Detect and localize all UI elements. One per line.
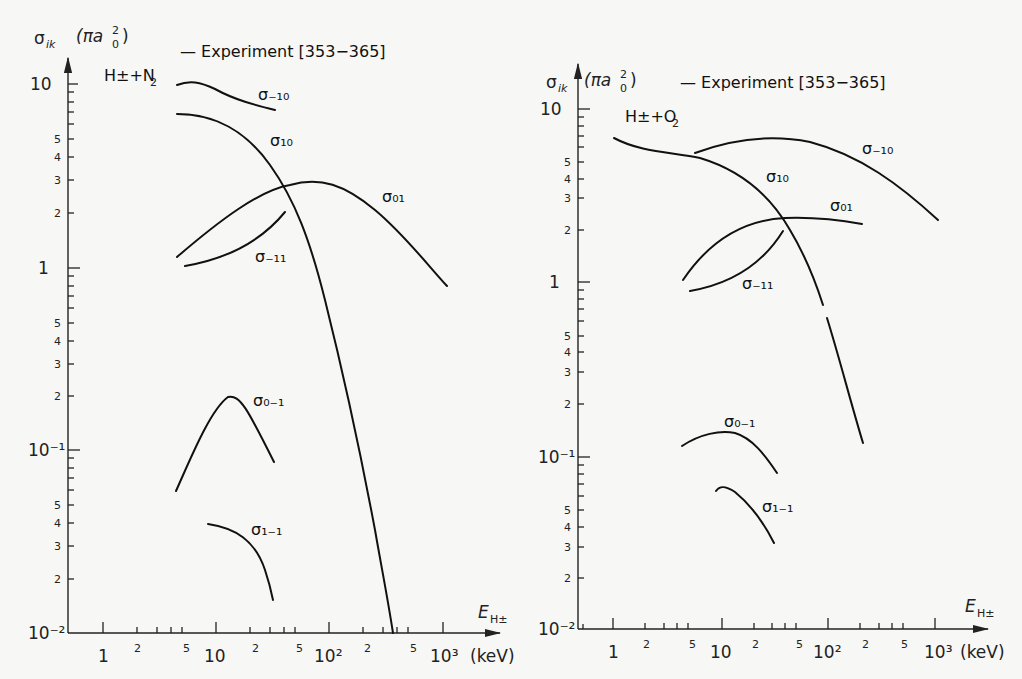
svg-text:10²: 10² xyxy=(314,646,342,666)
svg-text:σ₋₁₁: σ₋₁₁ xyxy=(255,247,286,266)
left-curve-sigma0-1 xyxy=(176,397,274,491)
svg-text:2: 2 xyxy=(54,390,61,403)
right-y-ticks xyxy=(578,109,590,578)
svg-text:4: 4 xyxy=(564,346,571,359)
svg-text:2: 2 xyxy=(364,642,371,655)
right-curve-sigma01 xyxy=(683,218,862,280)
svg-text:2: 2 xyxy=(620,68,627,81)
svg-text:5: 5 xyxy=(901,638,908,651)
svg-text:5: 5 xyxy=(564,330,571,343)
svg-text:(πa: (πa xyxy=(584,70,611,90)
svg-text:σ₀₋₁: σ₀₋₁ xyxy=(724,412,755,431)
svg-text:4: 4 xyxy=(54,151,61,164)
svg-text:σ: σ xyxy=(34,28,45,48)
svg-text:5: 5 xyxy=(689,638,696,651)
svg-text:1: 1 xyxy=(98,646,109,666)
svg-text:4: 4 xyxy=(54,335,61,348)
svg-text:3: 3 xyxy=(54,174,61,187)
svg-text:3: 3 xyxy=(54,358,61,371)
svg-text:2: 2 xyxy=(564,398,571,411)
svg-text:H±+N: H±+N xyxy=(104,66,155,85)
left-reaction-label: H±+N 2 xyxy=(104,66,157,89)
svg-text:10³: 10³ xyxy=(924,642,952,662)
svg-text:10²: 10² xyxy=(813,642,841,662)
svg-text:5: 5 xyxy=(296,642,303,655)
svg-text:H±: H± xyxy=(977,607,995,620)
right-x-unit: (keV) xyxy=(960,642,1005,662)
left-curve-sigma10 xyxy=(177,114,393,633)
svg-text:2: 2 xyxy=(862,638,869,651)
svg-text:σ₁₋₁: σ₁₋₁ xyxy=(762,497,793,516)
svg-text:10³: 10³ xyxy=(430,646,458,666)
svg-text:3: 3 xyxy=(564,366,571,379)
svg-text:10: 10 xyxy=(710,642,732,662)
svg-text:2: 2 xyxy=(134,642,141,655)
left-curve-sigma01 xyxy=(177,182,447,286)
svg-text:2: 2 xyxy=(564,224,571,237)
svg-text:ik: ik xyxy=(46,38,56,51)
svg-text:2: 2 xyxy=(112,24,119,37)
right-curve-sigma10-tail xyxy=(827,318,863,443)
svg-text:): ) xyxy=(630,70,637,90)
svg-text:σ₋₁₀: σ₋₁₀ xyxy=(258,85,289,104)
svg-text:σ₀₋₁: σ₀₋₁ xyxy=(253,391,284,410)
left-y-axis-label: σ ik (πa 0 2 ) xyxy=(34,24,129,51)
svg-text:σ: σ xyxy=(546,72,557,92)
svg-text:0: 0 xyxy=(620,82,627,95)
left-x-axis-label: E xyxy=(478,602,489,622)
svg-text:ik: ik xyxy=(558,82,568,95)
svg-text:2: 2 xyxy=(150,76,157,89)
svg-text:5: 5 xyxy=(564,156,571,169)
svg-text:2: 2 xyxy=(643,638,650,651)
svg-text:2: 2 xyxy=(54,207,61,220)
svg-text:2: 2 xyxy=(54,573,61,586)
svg-text:2: 2 xyxy=(564,572,571,585)
right-x-ticks xyxy=(583,618,935,629)
svg-text:3: 3 xyxy=(564,541,571,554)
svg-text:2: 2 xyxy=(672,117,679,130)
svg-text:5: 5 xyxy=(410,642,417,655)
svg-text:σ₀₁: σ₀₁ xyxy=(830,196,853,215)
right-y-tick-labels: 10 5 4 3 2 1 5 4 3 2 10⁻¹ 5 4 3 2 10⁻² xyxy=(538,99,575,639)
svg-text:10⁻¹: 10⁻¹ xyxy=(28,440,65,460)
svg-text:10⁻²: 10⁻² xyxy=(538,619,575,639)
svg-text:4: 4 xyxy=(564,521,571,534)
svg-text:2: 2 xyxy=(252,642,259,655)
svg-text:10: 10 xyxy=(540,99,562,119)
left-chart-n2: 10 5 4 3 2 1 5 4 3 2 10⁻¹ 5 4 3 2 10⁻² xyxy=(28,24,515,666)
figure-canvas: 10 5 4 3 2 1 5 4 3 2 10⁻¹ 5 4 3 2 10⁻² xyxy=(0,0,1022,679)
svg-text:5: 5 xyxy=(564,504,571,517)
svg-text:σ₁₀: σ₁₀ xyxy=(270,131,293,150)
svg-text:σ₋₁₁: σ₋₁₁ xyxy=(742,274,773,293)
svg-text:σ₁₀: σ₁₀ xyxy=(766,167,789,186)
svg-text:5: 5 xyxy=(54,133,61,146)
svg-text:σ₁₋₁: σ₁₋₁ xyxy=(251,520,282,539)
left-x-unit: (keV) xyxy=(470,646,515,666)
svg-text:5: 5 xyxy=(183,642,190,655)
svg-text:σ₋₁₀: σ₋₁₀ xyxy=(862,139,893,158)
right-curve-sigma0-1 xyxy=(682,432,777,473)
svg-text:0: 0 xyxy=(112,38,119,51)
left-y-ticks xyxy=(68,84,80,579)
svg-text:(πa: (πa xyxy=(76,26,103,46)
left-legend: — Experiment [353−365] xyxy=(180,42,386,61)
svg-text:5: 5 xyxy=(796,638,803,651)
right-chart-o2: 10 5 4 3 2 1 5 4 3 2 10⁻¹ 5 4 3 2 10⁻² xyxy=(538,64,1005,662)
svg-text:H±: H± xyxy=(490,613,508,626)
svg-text:1: 1 xyxy=(38,258,49,278)
svg-text:3: 3 xyxy=(54,540,61,553)
svg-text:5: 5 xyxy=(54,499,61,512)
svg-text:): ) xyxy=(122,26,129,46)
svg-text:5: 5 xyxy=(54,317,61,330)
svg-text:4: 4 xyxy=(564,173,571,186)
svg-text:1: 1 xyxy=(549,272,560,292)
left-y-tick-labels: 10 5 4 3 2 1 5 4 3 2 10⁻¹ 5 4 3 2 10⁻² xyxy=(28,74,65,643)
right-reaction-label: H±+O 2 xyxy=(625,107,679,130)
right-y-axis-label: σ ik (πa 0 2 ) xyxy=(546,68,637,95)
svg-text:3: 3 xyxy=(564,192,571,205)
svg-text:10⁻¹: 10⁻¹ xyxy=(538,447,575,467)
right-curve-sigma-minus10 xyxy=(695,138,938,220)
right-curve-sigma10 xyxy=(614,138,823,305)
left-x-tick-labels: 1 2 5 10 2 5 10² 2 5 10³ (keV) E H± xyxy=(98,602,515,666)
svg-text:4: 4 xyxy=(54,517,61,530)
